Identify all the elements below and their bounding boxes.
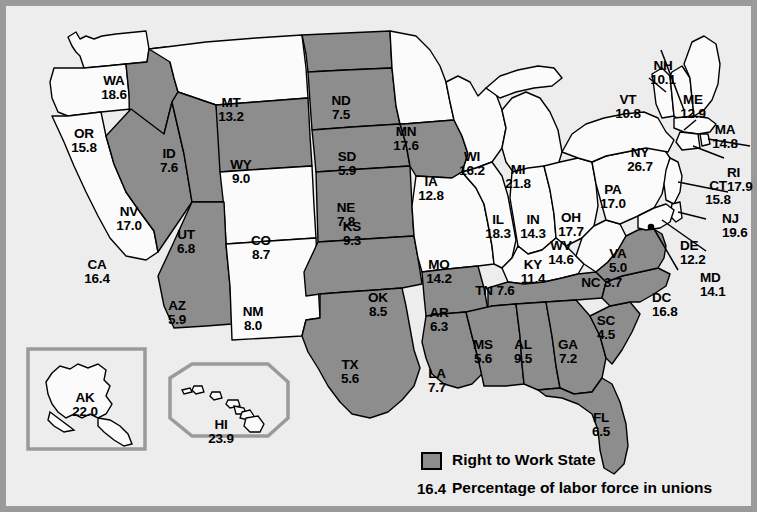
state-shape-KS[interactable] [316,166,414,242]
state-shape-DC[interactable] [648,224,653,229]
state-shape-ND[interactable] [302,31,392,72]
map-figure-frame: WA18.6 OR15.8 CA16.4 ID7.6 MT13.2 NV17.0… [0,0,757,512]
legend-sample-value: 16.4 [417,480,446,497]
state-shape-OR[interactable] [50,64,131,116]
state-shape-OK[interactable] [304,236,422,296]
state-shape-MA[interactable] [674,116,716,134]
leader-line-NJ [678,182,728,192]
legend-label-percentage: Percentage of labor force in unions [452,479,712,497]
state-shape-RI[interactable] [700,134,710,146]
leader-line-CT [693,146,724,158]
legend-label-rtw: Right to Work State [452,451,596,469]
leader-line-MD [662,220,706,251]
state-shape-NE[interactable] [312,124,410,172]
state-shape-CO[interactable] [220,166,316,244]
us-map-svg [6,6,757,512]
legend-swatch-rtw [421,452,442,470]
leader-line-RI [708,139,750,146]
state-shape-SD[interactable] [308,68,400,130]
state-shape-WY[interactable] [216,98,312,172]
state-shape-TX[interactable] [302,288,420,418]
state-shape-MN[interactable] [390,31,454,124]
